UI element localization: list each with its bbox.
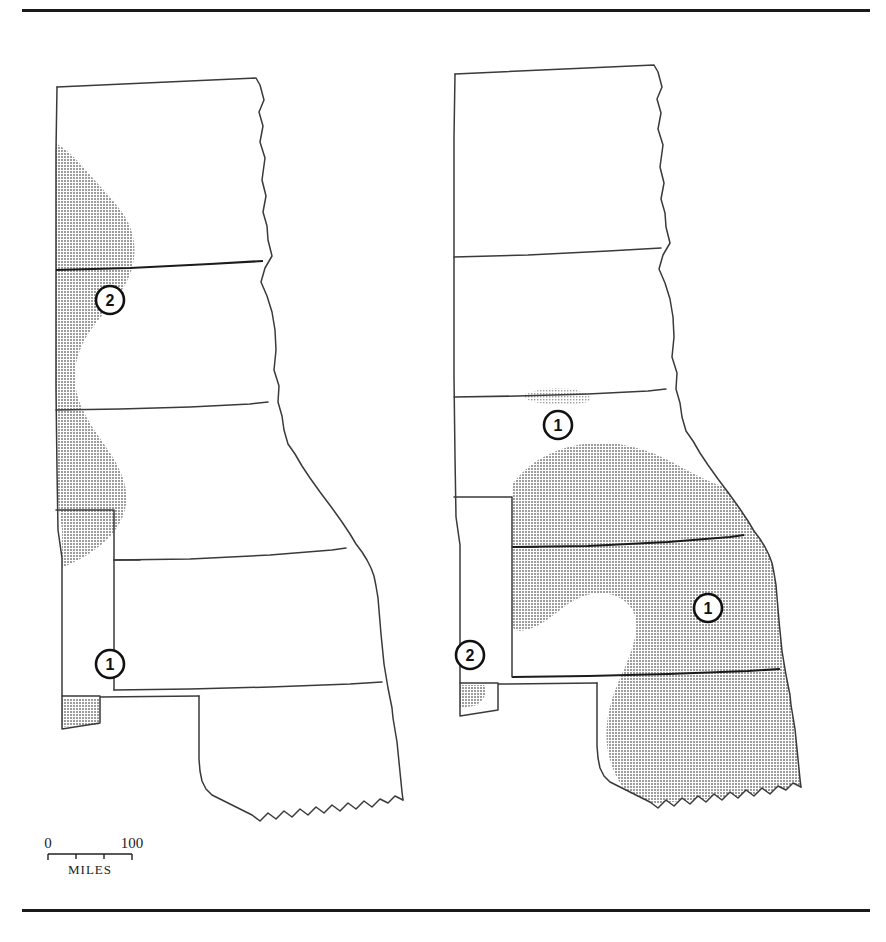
marker-1-nebraska[interactable]: 1 bbox=[544, 411, 572, 439]
figure-frame: 2 1 bbox=[0, 0, 886, 942]
bottom-horizontal-rule bbox=[22, 909, 870, 912]
marker-1-kansas[interactable]: 1 bbox=[694, 594, 722, 622]
marker-2-western-dakotas-label: 2 bbox=[106, 292, 115, 309]
right-map-panel: 1 1 2 bbox=[408, 30, 838, 830]
map-pair-container: 2 1 bbox=[0, 30, 886, 830]
marker-1-oklahoma-panhandle-label: 1 bbox=[106, 656, 115, 673]
marker-2-oklahoma-panhandle-label: 2 bbox=[466, 647, 475, 664]
scale-bar-unit-label: MILES bbox=[68, 862, 112, 877]
scale-bar-min-label: 0 bbox=[44, 835, 52, 851]
left-map-panel: 2 1 bbox=[10, 30, 440, 830]
scale-bar-max-label: 100 bbox=[121, 835, 144, 851]
marker-2-oklahoma-panhandle[interactable]: 2 bbox=[456, 641, 484, 669]
marker-1-oklahoma-panhandle[interactable]: 1 bbox=[96, 650, 124, 678]
scale-bar: 0 100 MILES bbox=[44, 834, 164, 880]
marker-1-nebraska-label: 1 bbox=[554, 417, 563, 434]
scale-bar-graphic bbox=[48, 854, 132, 860]
marker-2-western-dakotas[interactable]: 2 bbox=[96, 286, 124, 314]
marker-1-kansas-label: 1 bbox=[704, 600, 713, 617]
top-horizontal-rule bbox=[22, 9, 870, 12]
